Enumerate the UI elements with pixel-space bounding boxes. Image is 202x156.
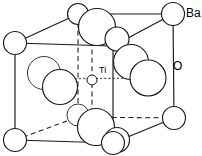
label-oxygen: O [173, 59, 182, 73]
label-titanium: Ti [99, 65, 106, 75]
atom-ba-front-bottom-left [4, 129, 27, 152]
crystal-structure-figure: Ba O Ti [0, 0, 202, 156]
atom-ti-body-centre [87, 75, 97, 85]
atom-o-right-face-front [130, 60, 166, 96]
atom-ba-back-bottom-right [163, 107, 186, 130]
label-barium: Ba [186, 6, 201, 20]
unit-cell-drawing: Ba O Ti [0, 0, 202, 156]
atom-ba-front-bottom-right [102, 132, 125, 155]
atom-ba-front-top-left [4, 32, 27, 55]
oxygen-atoms-sides [28, 45, 167, 105]
atom-o-left-face-front [43, 70, 78, 105]
atom-ba-back-top-right [162, 3, 185, 26]
